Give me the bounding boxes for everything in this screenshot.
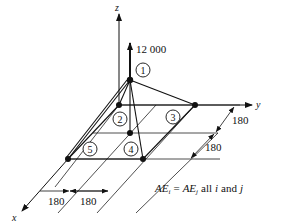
svg-text:5: 5 — [88, 144, 93, 155]
svg-text:2: 2 — [118, 114, 123, 125]
node-5-dot — [65, 156, 71, 162]
node-3-label: 3 — [166, 110, 180, 124]
x-axis-label: x — [11, 212, 17, 223]
node-4-label: 4 — [124, 142, 138, 156]
node-labels: 1 2 3 4 5 — [83, 63, 180, 156]
node-5-label: 5 — [83, 142, 97, 156]
node-3-dot — [192, 102, 198, 108]
node-4-dot — [140, 156, 146, 162]
y-dim-label-2: 180 — [205, 141, 222, 153]
stiffness-note: AEi=AEjalliandj — [154, 182, 243, 196]
svg-text:3: 3 — [171, 112, 176, 123]
y-axis-label: y — [255, 99, 261, 110]
x-dim-label-2: 180 — [80, 195, 97, 207]
svg-text:4: 4 — [129, 144, 134, 155]
space-truss-diagram: z y x 12 000 1 2 3 4 5 — [0, 0, 283, 224]
svg-text:1: 1 — [141, 65, 146, 76]
node-1-label: 1 — [136, 63, 150, 77]
load-value: 12 000 — [136, 43, 167, 55]
y-dim-label-1: 180 — [232, 114, 249, 126]
node-center-dot — [127, 130, 133, 136]
node-1-dot — [127, 77, 133, 83]
x-dim-label-1: 180 — [48, 195, 65, 207]
z-axis-label: z — [114, 2, 119, 13]
node-2-dot — [116, 102, 122, 108]
node-2-label: 2 — [113, 112, 127, 126]
